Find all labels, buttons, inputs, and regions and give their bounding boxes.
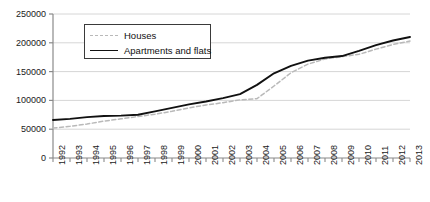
y-axis-tick-label: 50000 — [0, 124, 46, 134]
x-axis-tick-label: 2001 — [210, 145, 220, 165]
legend-label-houses: Houses — [124, 30, 156, 41]
x-axis-tick-label: 2000 — [193, 145, 203, 165]
x-axis-tick-label: 1997 — [142, 145, 152, 165]
x-axis-tick-label: 2003 — [244, 145, 254, 165]
y-axis-tick-label: 250000 — [0, 9, 46, 19]
plot-area — [0, 0, 430, 202]
y-axis-tick-label: 200000 — [0, 38, 46, 48]
y-axis-tick-label: 100000 — [0, 95, 46, 105]
legend-label-apartments-and-flats: Apartments and flats — [124, 45, 211, 56]
x-axis-tick-label: 2009 — [346, 145, 356, 165]
y-axis-tick-label: 0 — [0, 153, 46, 163]
x-axis-tick-label: 1998 — [159, 145, 169, 165]
legend-swatch-solid-icon — [90, 45, 118, 55]
x-axis-tick-label: 2005 — [278, 145, 288, 165]
y-axis-tick-label: 150000 — [0, 67, 46, 77]
x-axis-tick-label: 2010 — [363, 145, 373, 165]
chart-legend: Houses Apartments and flats — [84, 24, 211, 59]
x-axis-tick-label: 1993 — [74, 145, 84, 165]
x-axis-tick-label: 2008 — [329, 145, 339, 165]
x-axis-tick-label: 2006 — [295, 145, 305, 165]
x-axis-tick-label: 2002 — [227, 145, 237, 165]
x-axis-tick-label: 1996 — [125, 145, 135, 165]
x-axis-tick-label: 2013 — [414, 145, 424, 165]
x-axis-tick-label: 2011 — [380, 146, 390, 165]
x-axis-tick-label: 2007 — [312, 145, 322, 165]
x-axis-tick-label: 1994 — [91, 145, 101, 165]
legend-swatch-dashed-icon — [90, 30, 118, 40]
x-axis-tick-label: 2012 — [397, 145, 407, 165]
line-chart: 050000100000150000200000250000 199219931… — [0, 0, 430, 202]
legend-item-houses: Houses — [90, 28, 156, 42]
legend-item-apartments-and-flats: Apartments and flats — [90, 43, 211, 57]
x-axis-tick-label: 1992 — [57, 145, 67, 165]
x-axis-tick-label: 1999 — [176, 145, 186, 165]
x-axis-tick-label: 1995 — [108, 145, 118, 165]
x-axis-tick-label: 2004 — [261, 145, 271, 165]
